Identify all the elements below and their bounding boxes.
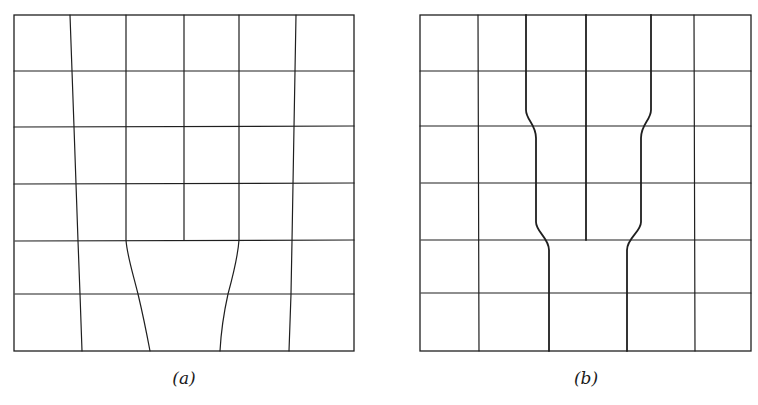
panel-a-vline-1 xyxy=(70,15,82,351)
panel-a-label: (a) xyxy=(154,368,214,388)
panel-a-vline-2 xyxy=(126,15,150,351)
panel-b-vline-1 xyxy=(478,15,479,351)
figure-canvas xyxy=(0,0,758,405)
panel-a-grid xyxy=(14,15,354,351)
panel-b-vline-5 xyxy=(694,15,695,351)
panel-b-grid xyxy=(420,15,751,351)
panel-b-label: (b) xyxy=(556,368,616,388)
